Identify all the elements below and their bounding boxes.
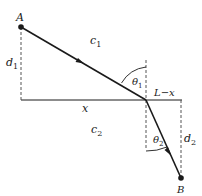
theta2-arc [146,147,167,151]
point-b-dot [178,175,184,181]
theta1-label: θ1 [132,76,143,90]
medium-2-label: c2 [91,123,102,138]
point-b-label: B [176,184,184,195]
medium-1-label: c1 [90,34,101,49]
point-a-label: A [15,11,24,24]
point-a-dot [18,24,24,30]
d2-label: d2 [184,132,196,147]
incident-ray [21,27,146,100]
refracted-ray [146,100,181,178]
d1-label: d1 [6,56,18,71]
l-minus-x-label: L−x [153,87,175,98]
x-label: x [82,102,89,115]
refracted-arrow-icon [165,147,172,156]
refraction-diagram: A B c1 c2 d1 d2 x L−x θ1 θ2 [0,0,202,196]
